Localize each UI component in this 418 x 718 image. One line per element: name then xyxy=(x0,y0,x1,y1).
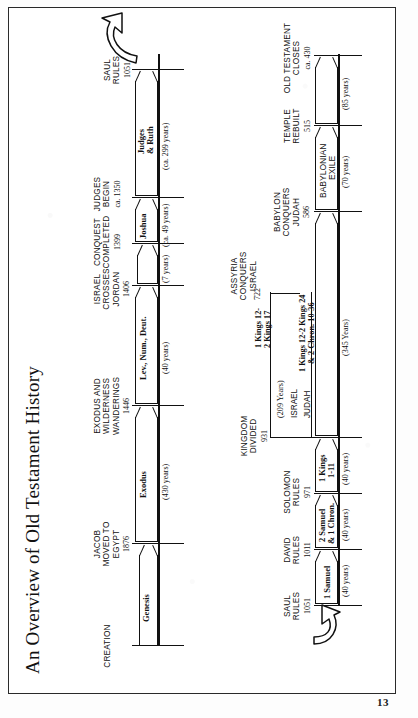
bracket-label-israel-books-line2: 2 Kings 17 xyxy=(263,311,272,348)
row1-duration-49: (ca. 49 years) xyxy=(161,204,170,247)
row1-event-judges-l2: BEGIN xyxy=(102,181,111,207)
row1-event-conquest-l1: CONQUEST xyxy=(93,218,102,266)
row1-duration-430: (430 years) xyxy=(161,464,170,500)
row1-event-creation-l1: CREATION xyxy=(103,624,112,667)
row1-event-conquest-l2: COMPLETED xyxy=(102,216,111,269)
page-title-text: An Overview of Old Testament History xyxy=(22,366,43,674)
row1-event-jordan: ISRAEL CROSSES JORDAN 1406 xyxy=(93,268,132,309)
row1-label-judges-line2: & Ruth xyxy=(145,126,155,154)
row2-band-temple-to-close xyxy=(315,58,338,124)
row2-event-solomon-l2: RULES xyxy=(292,478,301,506)
row2-event-solomon-year: 971 xyxy=(303,470,312,513)
row2-event-kingdom-year: 931 xyxy=(260,416,269,457)
row2-event-david-l1: DAVID xyxy=(283,537,292,562)
row1-event-jordan-year: 1406 xyxy=(122,268,131,309)
row2-event-kingdom-divided: KINGDOM DIVIDED 931 xyxy=(240,416,269,457)
row2-event-david-l2: RULES xyxy=(292,536,301,564)
row1-event-jacob-l2: MOVED TO xyxy=(102,522,111,567)
row1-event-jacob: JACOB MOVED TO EGYPT 1876 xyxy=(93,522,132,567)
row1-event-exodus: EXODUS AND WILDERNESS WANDERINGS 1446 xyxy=(93,377,132,435)
timeline-chart-canvas: An Overview of Old Testament History xyxy=(8,7,396,694)
row2-event-kingdom-l1: KINGDOM xyxy=(240,416,249,457)
row2-label-1kings-line2: 1-11 xyxy=(326,463,336,478)
row2-label-1samuel: 1 Samuel xyxy=(322,566,332,599)
row2-duration-345: (345 Years) xyxy=(341,319,350,356)
bracket-label-israel: ISRAEL xyxy=(290,389,299,418)
row2-event-kingdom-l2: DIVIDED xyxy=(249,419,258,454)
bracket-label-judah-books-line2: & 2 Chron. 10-36 xyxy=(307,302,316,364)
row1-event-judges-year: ca. 1350 xyxy=(113,177,122,211)
row2-event-close-l1: OLD TESTAMENT xyxy=(283,23,292,94)
row1-event-jordan-l1: ISRAEL xyxy=(93,274,102,304)
row2-duration-40a: (40 years) xyxy=(341,565,350,597)
row2-event-david-year: 1011 xyxy=(303,536,312,564)
row1-label-lnd: Lev., Num., Deut. xyxy=(138,316,148,380)
row2-event-assyria-l2: CONQUERS xyxy=(239,252,248,301)
bracket-label-judah: JUDAH xyxy=(303,391,312,418)
row2-event-saul-l1: SAUL xyxy=(283,595,292,617)
row1-event-jordan-l3: JORDAN xyxy=(112,272,121,307)
row1-label-exodus: Exodus xyxy=(138,471,148,498)
row1-label-joshua: Joshua xyxy=(138,213,148,239)
row2-event-babylon-l2: CONQUERS xyxy=(282,188,291,237)
scanned-page: An Overview of Old Testament History xyxy=(0,0,418,718)
row1-event-judges: JUDGES BEGIN ca. 1350 xyxy=(93,177,122,211)
row2-duration-70: (70 years) xyxy=(341,156,350,188)
row1-axis xyxy=(158,54,160,646)
row1-event-jacob-l1: JACOB xyxy=(93,530,102,558)
row1-duration-7: (7 years) xyxy=(161,255,170,283)
row1-band-conquest xyxy=(137,246,158,284)
row1-duration-299: (ca. 299 years) xyxy=(161,123,170,170)
row1-event-creation: CREATION xyxy=(103,624,112,667)
row1-event-exodus-l1: EXODUS AND xyxy=(93,378,102,434)
row2-band-divided-judah xyxy=(315,214,338,436)
row1-event-jordan-l2: CROSSES xyxy=(102,268,111,309)
row1-event-conquest: CONQUEST COMPLETED 1399 xyxy=(93,216,122,269)
row2-event-david: DAVID RULES 1011 xyxy=(283,536,312,564)
row1-duration-40: (40 years) xyxy=(161,342,170,374)
row2-event-temple-l2: REBUILT xyxy=(292,108,301,143)
row1-tick-jacob xyxy=(132,543,184,544)
row1-event-judges-l1: JUDGES xyxy=(93,177,102,211)
page-title: An Overview of Old Testament History xyxy=(22,366,44,674)
bracket-label-judah-books-line1: 1 Kings 12-2 Kings 24 xyxy=(298,295,307,372)
continuation-arrow-end-icon xyxy=(98,10,142,66)
row2-event-babylon-l1: BABYLON xyxy=(273,192,282,232)
row2-event-solomon-l1: SOLOMON xyxy=(283,470,292,513)
row2-event-babylon-l3: JUDAH xyxy=(292,198,301,226)
row2-tick-close xyxy=(314,55,362,56)
row2-event-saul-l2: RULES xyxy=(292,592,301,620)
row2-event-close-l2: CLOSES xyxy=(292,41,301,75)
row2-event-assyria-year: 722 xyxy=(253,288,262,300)
row2-event-temple-l1: TEMPLE xyxy=(283,109,292,143)
row2-event-close-year: ca. 430 xyxy=(303,23,312,94)
row2-label-2samuel-line2: & 1 Chron. xyxy=(326,503,336,544)
row1-event-exodus-l3: WANDERINGS xyxy=(112,377,121,435)
row2-tick-temple xyxy=(314,125,362,126)
row2-event-babylon-year: 586 xyxy=(302,188,311,237)
row2-tick-solomon xyxy=(314,493,362,494)
row2-event-babylon: BABYLON CONQUERS JUDAH 586 xyxy=(273,188,312,237)
page-number: 13 xyxy=(377,696,389,708)
row1-event-conquest-year: 1399 xyxy=(113,216,122,269)
row2-event-assyria-l3: ISRAEL xyxy=(249,261,258,291)
row1-event-exodus-l2: WILDERNESS xyxy=(102,378,111,434)
row2-duration-40c: (40 years) xyxy=(341,453,350,485)
row2-event-temple-year: 515 xyxy=(303,108,312,143)
row2-tick-david xyxy=(314,549,362,550)
row1-event-jacob-year: 1876 xyxy=(122,522,131,567)
continuation-arrow-start-icon xyxy=(304,602,342,648)
row2-tick-babylon xyxy=(314,211,362,212)
bracket-duration-209: (209 Years) xyxy=(276,380,285,418)
row1-tick-conquest xyxy=(132,243,184,244)
row1-event-exodus-year: 1446 xyxy=(122,377,131,435)
row2-event-temple: TEMPLE REBUILT 515 xyxy=(283,108,312,143)
row1-event-jacob-l3: EGYPT xyxy=(112,530,121,559)
row2-event-assyria-year-wrap: 722 xyxy=(253,288,262,300)
row2-event-ot-closes: OLD TESTAMENT CLOSES ca. 430 xyxy=(283,23,312,94)
row2-duration-40b: (40 years) xyxy=(341,509,350,541)
row2-event-assyria-l1: ASSYRIA xyxy=(230,258,239,295)
row2-label-exile-line2: EXILE xyxy=(327,156,337,180)
row2-duration-85: (85 years) xyxy=(341,78,350,110)
bracket-label-israel-books-line1: 1 Kings 12- xyxy=(254,308,263,348)
